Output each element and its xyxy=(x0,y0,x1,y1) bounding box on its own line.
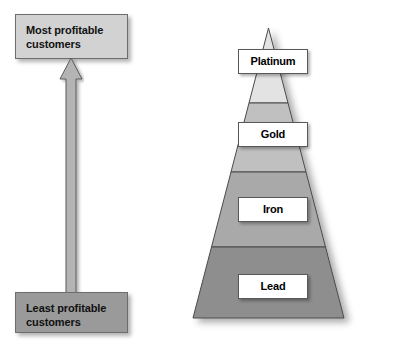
callout-least-profitable-line2: customers xyxy=(26,315,117,329)
tier-label-lead: Lead xyxy=(238,274,308,299)
tier-label-platinum: Platinum xyxy=(238,49,308,74)
callout-most-profitable-line2: customers xyxy=(26,37,117,51)
callout-least-profitable: Least profitable customers xyxy=(15,292,128,333)
arrow-shape xyxy=(60,58,82,295)
callout-least-profitable-line1: Least profitable xyxy=(26,301,117,315)
tier-label-gold: Gold xyxy=(238,122,308,147)
diagram-canvas: Most profitable customers Least profitab… xyxy=(0,0,399,344)
tier-label-iron: Iron xyxy=(238,197,308,222)
upward-arrow-icon xyxy=(58,57,84,295)
callout-most-profitable-line1: Most profitable xyxy=(26,23,117,37)
callout-most-profitable: Most profitable customers xyxy=(15,14,128,59)
